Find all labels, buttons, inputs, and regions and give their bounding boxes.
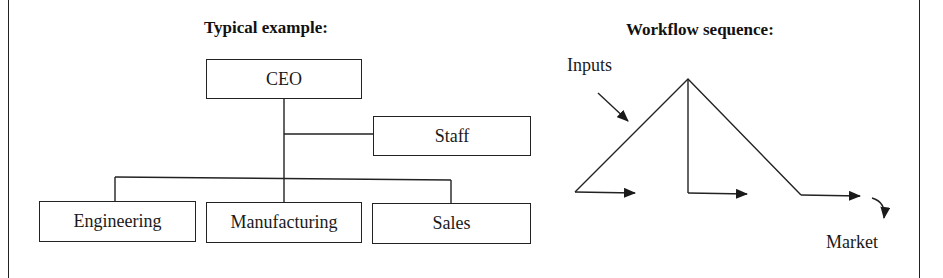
staff-box: Staff (373, 116, 531, 156)
department-bus-line (115, 177, 451, 180)
workflow-arrow-2 (688, 193, 747, 194)
workflow-arrow-3 (801, 195, 860, 196)
department-box-sales: Sales (372, 203, 531, 244)
department-box-manufacturing: Manufacturing (206, 202, 362, 243)
market-label: Market (826, 232, 878, 253)
market-curved-arrow (872, 198, 884, 218)
inputs-arrow (598, 93, 628, 121)
org-chart-title: Typical example: (204, 18, 328, 38)
department-box-engineering: Engineering (39, 201, 196, 242)
workflow-title: Workflow sequence: (626, 20, 774, 40)
workflow-arrow-1 (575, 192, 635, 193)
inputs-label: Inputs (567, 55, 612, 76)
ceo-box: CEO (206, 59, 362, 99)
